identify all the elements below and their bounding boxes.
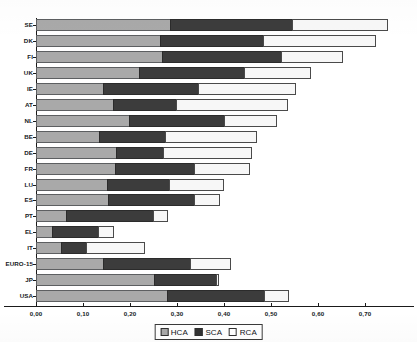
bar-segment-rca <box>216 274 219 286</box>
x-axis-tick <box>83 303 84 307</box>
y-axis-tick-label: DE <box>0 147 33 159</box>
bar-segment-hca <box>36 274 155 286</box>
bar-row <box>36 290 289 302</box>
legend-label-hca: HCA <box>171 328 188 337</box>
bar-segment-sca <box>52 226 99 238</box>
x-axis-tick <box>365 303 366 307</box>
x-axis-tick-label: 0,30 <box>171 310 183 317</box>
bar-segment-sca <box>160 35 264 47</box>
x-axis-tick-label: 0,50 <box>265 310 277 317</box>
bar-row <box>36 51 343 63</box>
bar-segment-sca <box>113 99 177 111</box>
bar-row <box>36 19 388 31</box>
legend-item-hca: HCA <box>160 328 188 337</box>
y-axis-tick-label: FR <box>0 163 33 175</box>
bar-segment-rca <box>198 83 296 95</box>
bar-row <box>36 67 311 79</box>
legend-swatch-sca-icon <box>195 328 203 336</box>
y-axis-tick-label: ES <box>0 194 33 206</box>
stacked-bar-chart: SEDKFIUKIEATNLBEDEFRLUESPTELITEURO-15JPU… <box>0 0 417 342</box>
bar-segment-rca <box>169 179 224 191</box>
bar-segment-rca <box>263 35 376 47</box>
bar-segment-sca <box>170 19 293 31</box>
bar-row <box>36 99 288 111</box>
bar-row <box>36 147 252 159</box>
bar-segment-sca <box>162 51 282 63</box>
x-axis-tick <box>224 303 225 307</box>
x-axis-tick-label: 0,10 <box>77 310 89 317</box>
bar-segment-hca <box>36 35 161 47</box>
bar-segment-rca <box>264 290 289 302</box>
legend-item-rca: RCA <box>229 328 257 337</box>
bar-segment-hca <box>36 19 171 31</box>
y-axis-tick-label: USA <box>0 290 33 302</box>
plot-area <box>36 19 417 306</box>
bar-segment-hca <box>36 226 53 238</box>
x-axis-tick-label: 0,70 <box>359 310 371 317</box>
bar-segment-sca <box>115 163 195 175</box>
bar-segment-rca <box>163 147 252 159</box>
bar-segment-rca <box>98 226 114 238</box>
bar-segment-sca <box>167 290 265 302</box>
x-axis-tick-label: 0,60 <box>312 310 324 317</box>
y-axis-tick-label: IE <box>0 83 33 95</box>
bar-segment-hca <box>36 258 104 270</box>
bar-segment-rca <box>176 99 288 111</box>
bar-segment-rca <box>224 115 277 127</box>
bar-segment-hca <box>36 147 117 159</box>
bar-segment-sca <box>61 242 87 254</box>
x-axis-tick <box>318 303 319 307</box>
x-axis-tick <box>130 303 131 307</box>
y-axis-tick-label: SE <box>0 19 33 31</box>
y-axis-tick-label: UK <box>0 67 33 79</box>
bar-segment-sca <box>108 194 195 206</box>
bar-segment-rca <box>292 19 388 31</box>
bar-segment-hca <box>36 131 100 143</box>
y-axis-tick-label: AT <box>0 99 33 111</box>
bar-row <box>36 242 145 254</box>
legend-label-sca: SCA <box>205 328 222 337</box>
bar-segment-sca <box>139 67 245 79</box>
bar-segment-hca <box>36 179 108 191</box>
y-axis-tick-label: EL <box>0 226 33 238</box>
bar-row <box>36 163 250 175</box>
legend-swatch-hca-icon <box>160 328 168 336</box>
bar-segment-hca <box>36 83 104 95</box>
bar-segment-hca <box>36 290 168 302</box>
bar-segment-hca <box>36 242 62 254</box>
legend-swatch-rca-icon <box>229 328 237 336</box>
x-axis-tick <box>177 303 178 307</box>
x-axis-tick-label: 0,40 <box>218 310 230 317</box>
bar-segment-rca <box>190 258 231 270</box>
bar-segment-hca <box>36 67 140 79</box>
y-axis-tick-label: JP <box>0 274 33 286</box>
x-axis-tick <box>271 303 272 307</box>
bar-row <box>36 274 219 286</box>
bar-row <box>36 258 231 270</box>
legend-item-sca: SCA <box>195 328 222 337</box>
bar-row <box>36 115 277 127</box>
bar-row <box>36 194 220 206</box>
y-axis-tick-label: NL <box>0 115 33 127</box>
y-axis-tick-label: BE <box>0 131 33 143</box>
bar-segment-sca <box>154 274 217 286</box>
y-axis-labels: SEDKFIUKIEATNLBEDEFRLUESPTELITEURO-15JPU… <box>0 19 34 306</box>
chart-title <box>0 0 417 8</box>
bar-segment-rca <box>153 210 168 222</box>
y-axis-tick-label: IT <box>0 242 33 254</box>
bar-segment-hca <box>36 163 116 175</box>
legend-label-rca: RCA <box>240 328 257 337</box>
bar-segment-rca <box>194 163 250 175</box>
y-axis-tick-label: EURO-15 <box>0 258 33 270</box>
x-axis-tick <box>36 303 37 307</box>
y-axis-tick-label: PT <box>0 210 33 222</box>
bar-segment-rca <box>165 131 257 143</box>
y-axis-tick-label: LU <box>0 179 33 191</box>
y-axis-tick-label: FI <box>0 51 33 63</box>
bar-row <box>36 83 296 95</box>
bar-segment-hca <box>36 210 67 222</box>
bar-segment-hca <box>36 51 163 63</box>
bar-segment-rca <box>244 67 311 79</box>
x-axis-tick-label: 0,20 <box>124 310 136 317</box>
bar-segment-hca <box>36 99 114 111</box>
